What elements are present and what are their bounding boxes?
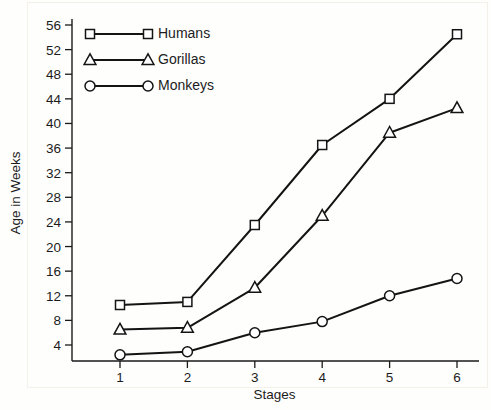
y-axis-tick-label: 12 bbox=[46, 289, 61, 304]
legend-label-gorillas: Gorillas bbox=[158, 51, 205, 67]
legend-marker-humans bbox=[144, 30, 153, 39]
data-point-humans bbox=[385, 94, 394, 103]
data-point-monkeys bbox=[452, 274, 462, 284]
data-point-humans bbox=[318, 141, 327, 150]
x-axis-tick-label: 6 bbox=[453, 370, 461, 385]
x-axis-tick-label: 3 bbox=[251, 370, 259, 385]
x-axis-tick-label: 5 bbox=[386, 370, 394, 385]
data-point-monkeys bbox=[385, 291, 395, 301]
data-point-humans bbox=[183, 297, 192, 306]
y-axis-tick-label: 48 bbox=[46, 67, 61, 82]
legend-label-monkeys: Monkeys bbox=[158, 77, 214, 93]
legend-marker-monkeys bbox=[85, 81, 95, 91]
legend-marker-monkeys bbox=[143, 81, 153, 91]
series-line-gorillas bbox=[120, 108, 457, 330]
x-axis-tick-label: 2 bbox=[184, 370, 192, 385]
y-axis-tick-label: 32 bbox=[46, 166, 61, 181]
x-axis-tick-label: 4 bbox=[318, 370, 326, 385]
y-axis-tick-label: 52 bbox=[46, 43, 61, 58]
y-axis-tick-label: 40 bbox=[46, 116, 61, 131]
y-axis-tick-label: 36 bbox=[46, 141, 61, 156]
legend-label-humans: Humans bbox=[158, 25, 210, 41]
y-axis-tick-label: 4 bbox=[53, 338, 61, 353]
series-line-monkeys bbox=[120, 279, 457, 355]
data-point-gorillas bbox=[451, 102, 463, 113]
data-point-humans bbox=[116, 301, 125, 310]
data-point-monkeys bbox=[317, 317, 327, 327]
data-point-monkeys bbox=[182, 347, 192, 357]
x-axis-tick-label: 1 bbox=[116, 370, 124, 385]
chart-container: 48121620242832364044485256123456StagesAg… bbox=[0, 0, 491, 410]
y-axis-title: Age in Weeks bbox=[8, 151, 23, 234]
y-axis-tick-label: 44 bbox=[46, 92, 62, 107]
y-axis-tick-label: 56 bbox=[46, 18, 61, 33]
y-axis-tick-label: 28 bbox=[46, 190, 61, 205]
data-point-monkeys bbox=[250, 328, 260, 338]
line-chart-plot: 48121620242832364044485256123456StagesAg… bbox=[0, 0, 491, 410]
data-point-humans bbox=[453, 30, 462, 39]
data-point-monkeys bbox=[115, 350, 125, 360]
y-axis-tick-label: 16 bbox=[46, 264, 61, 279]
y-axis-tick-label: 20 bbox=[46, 240, 61, 255]
data-point-humans bbox=[250, 221, 259, 230]
x-axis-title: Stages bbox=[253, 387, 295, 402]
y-axis-tick-label: 24 bbox=[46, 215, 62, 230]
series-line-humans bbox=[120, 34, 457, 305]
y-axis-tick-label: 8 bbox=[53, 313, 61, 328]
legend-marker-humans bbox=[86, 30, 95, 39]
